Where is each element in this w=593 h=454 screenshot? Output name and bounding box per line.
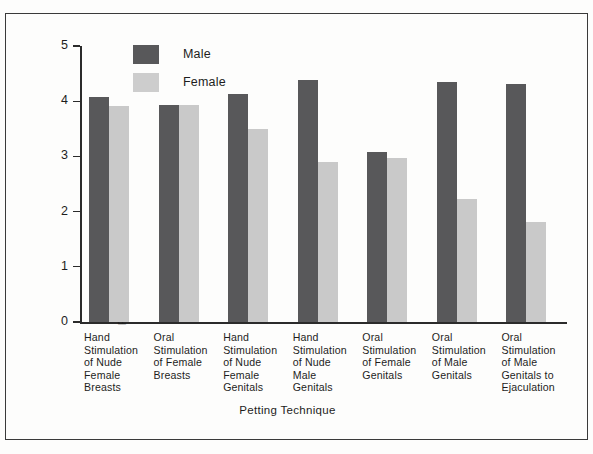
y-axis-tick-label: 4 <box>44 94 68 107</box>
x-axis-category-label: HandStimulationof NudeFemaleGenitals <box>223 331 297 394</box>
x-axis-category-label: OralStimulationof MaleGenitals toEjacula… <box>501 331 575 394</box>
bar-male-6 <box>437 82 457 322</box>
x-axis-category-label: HandStimulationof NudeFemaleBreasts <box>84 331 158 394</box>
legend-label: Male <box>183 47 211 61</box>
category-label-line: of Male <box>432 356 506 369</box>
category-label-line: Genitals to <box>501 369 575 382</box>
bar-male-2 <box>159 105 179 322</box>
category-label-line: Hand <box>84 331 158 344</box>
category-label-line: Ejaculation <box>501 381 575 394</box>
y-axis-tick-label: 5 <box>44 39 68 52</box>
category-label-line: Stimulation <box>293 344 367 357</box>
bar-female-5 <box>387 158 407 322</box>
bar-female-1 <box>109 106 129 322</box>
bar-male-1 <box>89 97 109 322</box>
category-label-line: Oral <box>362 331 436 344</box>
category-label-line: Hand <box>293 331 367 344</box>
category-label-line: of Female <box>154 356 228 369</box>
category-label-line: of Nude <box>84 356 158 369</box>
y-axis-tick-label: 0 <box>44 315 68 328</box>
legend-label: Female <box>183 75 226 89</box>
bar-female-6 <box>457 199 477 322</box>
x-axis-category-label: OralStimulationof MaleGenitals <box>432 331 506 381</box>
y-axis-tick <box>73 321 80 322</box>
category-label-line: Genitals <box>362 369 436 382</box>
category-label-line: Female <box>84 369 158 382</box>
x-axis-category-labels: HandStimulationof NudeFemaleBreastsOralS… <box>80 331 567 401</box>
y-axis-tick <box>73 45 80 46</box>
legend-item-male: Male <box>133 40 283 68</box>
bar-female-4 <box>318 162 338 322</box>
x-axis-category-label: OralStimulationof FemaleBreasts <box>154 331 228 381</box>
y-axis-tick-label: 3 <box>44 149 68 162</box>
category-label-line: Oral <box>501 331 575 344</box>
category-label-line: Oral <box>432 331 506 344</box>
x-axis-title: Petting Technique <box>0 404 575 416</box>
legend-item-female: Female <box>133 68 283 96</box>
category-label-line: of Male <box>501 356 575 369</box>
x-axis-line <box>80 322 567 324</box>
legend-swatch-female <box>133 73 159 92</box>
category-label-line: Hand <box>223 331 297 344</box>
bar-female-7 <box>526 222 546 322</box>
category-label-line: Breasts <box>84 381 158 394</box>
category-label-line: of Nude <box>293 356 367 369</box>
category-label-line: Genitals <box>293 381 367 394</box>
x-axis-category-label: OralStimulationof FemaleGenitals <box>362 331 436 381</box>
y-axis-tick <box>73 156 80 157</box>
y-axis-tick-label: 1 <box>44 260 68 273</box>
category-label-line: Stimulation <box>84 344 158 357</box>
bar-male-7 <box>506 84 526 322</box>
category-label-line: Stimulation <box>501 344 575 357</box>
category-label-line: Stimulation <box>223 344 297 357</box>
bar-male-4 <box>298 80 318 322</box>
bar-female-3 <box>248 129 268 322</box>
category-label-line: Oral <box>154 331 228 344</box>
category-label-line: Male <box>293 369 367 382</box>
legend: MaleFemale <box>133 40 283 96</box>
bar-male-5 <box>367 152 387 322</box>
category-label-line: Stimulation <box>154 344 228 357</box>
y-axis-tick-label: 2 <box>44 205 68 218</box>
y-axis-tick <box>73 266 80 267</box>
y-axis-tick <box>73 211 80 212</box>
category-label-line: Stimulation <box>432 344 506 357</box>
category-label-line: of Nude <box>223 356 297 369</box>
category-label-line: Stimulation <box>362 344 436 357</box>
bar-female-2 <box>179 105 199 322</box>
category-label-line: Female <box>223 369 297 382</box>
category-label-line: Genitals <box>432 369 506 382</box>
legend-swatch-male <box>133 45 159 64</box>
x-axis-category-label: HandStimulationof NudeMaleGenitals <box>293 331 367 394</box>
category-label-line: of Female <box>362 356 436 369</box>
bar-male-3 <box>228 94 248 322</box>
category-label-line: Breasts <box>154 369 228 382</box>
category-label-line: Genitals <box>223 381 297 394</box>
figure-canvas: 012345 Reported Sexual Arousal and Enjoy… <box>0 0 593 454</box>
y-axis-tick <box>73 101 80 102</box>
